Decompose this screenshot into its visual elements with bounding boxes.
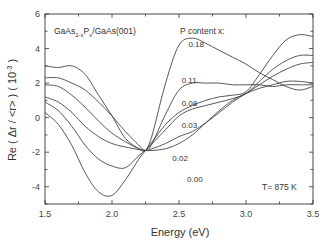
curve-label: 0.11 [182, 76, 198, 85]
y-tick-label: 4 [35, 44, 40, 54]
data-curves [45, 35, 313, 197]
curve-x-0-03 [45, 62, 313, 150]
x-tick-label: 2.0 [106, 209, 119, 219]
reflectance-anisotropy-chart: 1.52.02.53.03.5 -4-20246 0.180.110.080.0… [0, 0, 330, 251]
y-tick-label: -4 [32, 182, 40, 192]
y-tick-label: 6 [35, 9, 40, 19]
curve-label: 0.08 [182, 99, 198, 108]
y-tick-label: 2 [35, 78, 40, 88]
curve-label: 0.03 [182, 121, 198, 130]
curve-label: 0.18 [188, 40, 204, 49]
x-tick-label: 3.5 [307, 209, 320, 219]
x-tick-label: 3.0 [240, 209, 253, 219]
y-tick-label: 0 [35, 113, 40, 123]
curve-label: 0.00 [187, 175, 203, 184]
y-axis-ticks: -4-20246 [32, 9, 313, 204]
temperature-annotation: T= 875 K [262, 182, 297, 192]
y-axis-title: Re ( Δr / <r> ) ( 10-3 ) [6, 59, 18, 161]
legend-title: P content x: [180, 26, 225, 36]
y-tick-label: -2 [32, 147, 40, 157]
x-tick-label: 2.5 [173, 209, 186, 219]
curve-x-0-02 [45, 55, 313, 168]
plot-frame [45, 14, 313, 204]
curve-x-0-11 [45, 78, 313, 151]
x-tick-label: 1.5 [39, 209, 52, 219]
x-axis-title: Energy (eV) [151, 226, 210, 238]
sample-label: GaAs1-xPx/GaAs(001) [54, 26, 136, 38]
curve-label: 0.02 [172, 154, 188, 163]
curve-labels: 0.180.110.080.030.020.00 [172, 40, 204, 185]
